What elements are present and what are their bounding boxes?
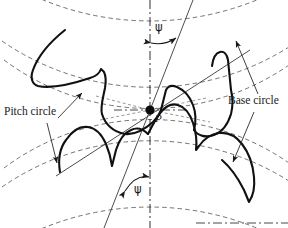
tooth-upper-left [32, 30, 106, 114]
tooth-lower-right [219, 133, 254, 202]
helix-angle-label-top: ψ [155, 22, 163, 34]
gear-mesh-figure: Pitch circle Base circle P ψ ψ [0, 0, 288, 228]
pitch-circle-label: Pitch circle [4, 106, 56, 118]
base-circle-label: Base circle [228, 95, 279, 107]
tooth-upper-right [194, 52, 233, 137]
leader-pitch-circle-lower [47, 123, 57, 163]
pitch-point-label: P [155, 113, 162, 124]
leader-pitch-circle-upper [58, 93, 82, 118]
angle-arc-upper [151, 38, 176, 44]
lower-gear-circles [2, 119, 288, 228]
pitch-point-marker [145, 105, 154, 114]
upper-gear-circles [2, 0, 288, 109]
helix-angle-label-bottom: ψ [134, 184, 142, 196]
leader-base-circle-upper [236, 41, 258, 94]
